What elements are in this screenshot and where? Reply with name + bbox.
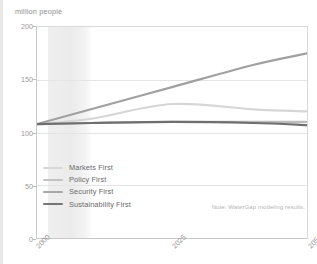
y-axis-tick-group: 050100150200 <box>3 0 33 264</box>
legend-swatch-markets-first <box>43 167 63 169</box>
series-line-sustainability-first <box>37 122 307 125</box>
legend-item-policy-first[interactable]: Policy First <box>43 175 131 184</box>
legend-swatch-policy-first <box>43 179 63 181</box>
legend-item-security-first[interactable]: Security First <box>43 187 131 196</box>
series-line-security-first <box>37 53 307 124</box>
legend-label-sustainability-first: Sustainability First <box>69 200 131 209</box>
legend-label-security-first: Security First <box>69 187 114 196</box>
legend-item-markets-first[interactable]: Markets First <box>43 163 131 172</box>
legend-label-policy-first: Policy First <box>69 175 106 184</box>
y-tick-mark-0 <box>32 239 36 240</box>
chart-figure: million people 050100150200 200020252050… <box>0 0 317 264</box>
chart-legend: Markets First Policy First Security Firs… <box>43 163 131 209</box>
legend-label-markets-first: Markets First <box>69 163 113 172</box>
legend-item-sustainability-first[interactable]: Sustainability First <box>43 200 131 209</box>
legend-swatch-sustainability-first <box>43 203 63 206</box>
source-note: Note: WaterGap modeling results. <box>212 204 305 210</box>
legend-swatch-security-first <box>43 191 63 193</box>
